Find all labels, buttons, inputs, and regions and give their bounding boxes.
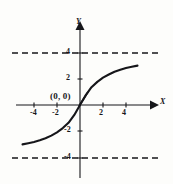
x-tick-label-4: 4 xyxy=(122,109,126,117)
x-tick-label-2: 2 xyxy=(99,109,103,117)
y-axis-label: Y xyxy=(76,18,81,26)
y-tick-label-4: 4 xyxy=(66,48,70,56)
y-tick-label--2: -2 xyxy=(64,126,71,134)
y-tick-label--4: -4 xyxy=(64,153,71,161)
x-tick-label--4: -4 xyxy=(30,109,37,117)
x-axis-arrowhead xyxy=(150,101,159,110)
plot-canvas xyxy=(0,0,173,184)
x-tick-label--2: -2 xyxy=(52,109,59,117)
x-axis-label: X xyxy=(160,98,165,106)
y-tick-label-2: 2 xyxy=(66,74,70,82)
origin-annotation-label: (0, 0) xyxy=(50,92,71,101)
figure-container: -4 -2 2 4 4 2 -2 -4 (0, 0) X Y xyxy=(0,0,173,184)
